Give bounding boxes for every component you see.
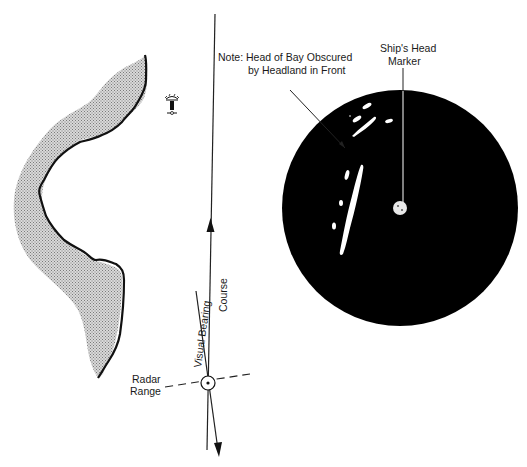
land-fill xyxy=(14,55,147,378)
ships-head-label-line1: Ship's Head xyxy=(380,42,436,54)
ships-head-label-line2: Marker xyxy=(388,55,421,67)
note-label-line2: by Headland in Front xyxy=(248,64,345,76)
radar-range-label-line2: Range xyxy=(130,385,161,397)
position-fix-icon xyxy=(201,376,215,390)
radar-display xyxy=(282,90,518,326)
bearing-arrowhead-icon xyxy=(214,442,222,457)
radar-range-label-line1: Radar xyxy=(132,373,161,385)
course-arrowhead-icon xyxy=(207,218,215,232)
course-label: Course xyxy=(217,278,229,312)
note-label-line1: Note: Head of Bay Obscured xyxy=(218,51,352,63)
own-ship-echo xyxy=(393,201,407,215)
land-mass xyxy=(14,55,147,378)
diagram-canvas: Course Visual Bearing Note: Head of Bay … xyxy=(0,0,527,467)
lighthouse-icon xyxy=(165,94,179,115)
